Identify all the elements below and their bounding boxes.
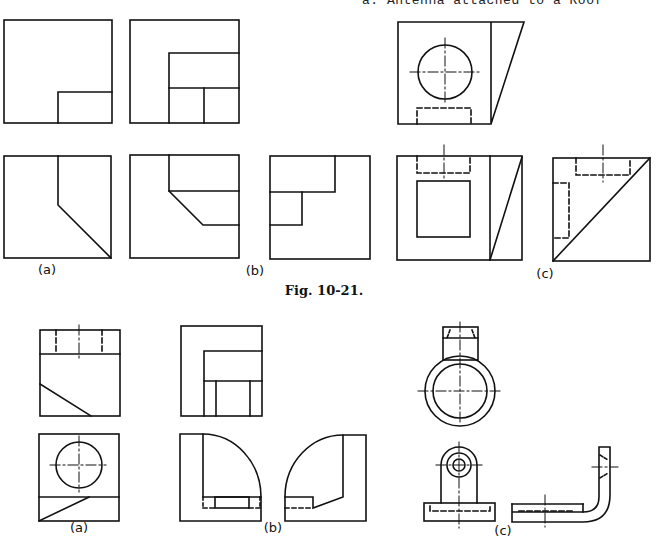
fig1-c-top-view [398,22,524,124]
fig2-b-top-view [181,326,262,416]
fig1-a-front-view [4,156,111,258]
fig1-b-front-view [130,155,239,258]
fig2-label-c: (c) [494,523,511,538]
fig2-b-front-view [180,434,261,521]
fig1-label-b: (b) [246,263,264,278]
fig2-a-top-view [39,434,119,521]
fig1-b-side-view [270,156,370,259]
fig2-c-front-view [424,442,495,528]
fig1-a-top-view [4,20,112,123]
technical-drawings [0,0,656,540]
fig2-a-front-view [40,325,120,416]
fig1-b-top-view [130,20,239,123]
fig2-c-side-view [512,447,618,527]
fig2-c-top-view [418,322,503,426]
fig1-c-side-view [553,145,650,261]
figure-caption: Fig. 10-21. [285,283,363,298]
fig2-label-b: (b) [264,520,282,535]
fig2-label-a: (a) [70,520,88,535]
fig1-c-front-view [397,145,522,260]
fig1-label-c: (c) [536,266,553,281]
fig2-b-side-view [285,435,366,521]
fig1-label-a: (a) [38,262,56,277]
